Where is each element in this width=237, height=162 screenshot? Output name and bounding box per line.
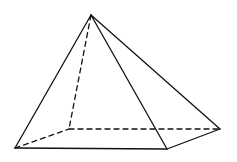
- edge-front_right-back_right: [167, 129, 220, 149]
- edge-apex-back_right: [91, 15, 220, 129]
- edge-front_left-back_left: [15, 129, 69, 148]
- edge-apex-back_left: [69, 15, 91, 129]
- pyramid-diagram: [0, 0, 237, 162]
- pyramid-edges: [15, 15, 220, 149]
- edge-front_left-front_right: [15, 148, 167, 149]
- edge-apex-front_left: [15, 15, 91, 148]
